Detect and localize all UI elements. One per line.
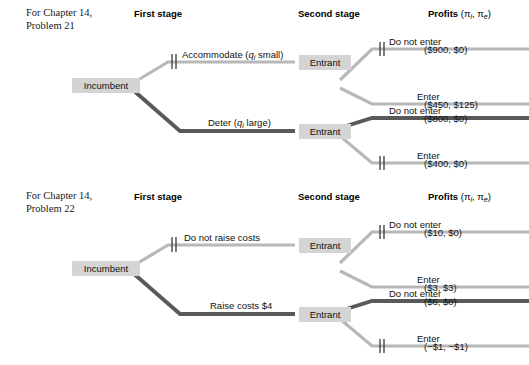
node-entrant-no-raise[interactable]: Entrant [299, 238, 351, 253]
payoff-b2: ($400, $0) [424, 158, 467, 169]
payoff-a1: ($10, $0) [424, 227, 462, 238]
payoff-b1: ($800, $0) [424, 113, 467, 124]
node-entrant-accommodate[interactable]: Entrant [299, 55, 351, 70]
payoff-a1: ($900, $0) [424, 44, 467, 55]
branch-label-accommodate: Accommodate (qi small) [182, 49, 283, 61]
branch-label-raise-costs: Raise costs $4 [210, 300, 272, 312]
branch-label-deter: Deter (qi large) [208, 117, 271, 129]
game-tree-problem-21: For Chapter 14, Problem 21 First stage S… [0, 0, 529, 182]
payoff-b1: ($6, $0) [424, 296, 457, 307]
branch-label-do-not-raise-costs: Do not raise costs [184, 232, 260, 244]
node-entrant-raise[interactable]: Entrant [299, 307, 351, 322]
payoff-b2: (−$1, −$1) [424, 341, 468, 352]
game-tree-problem-22: For Chapter 14, Problem 22 First stage S… [0, 183, 529, 365]
node-incumbent[interactable]: Incumbent [72, 78, 140, 93]
node-entrant-deter[interactable]: Entrant [299, 124, 351, 139]
node-incumbent[interactable]: Incumbent [72, 261, 140, 276]
